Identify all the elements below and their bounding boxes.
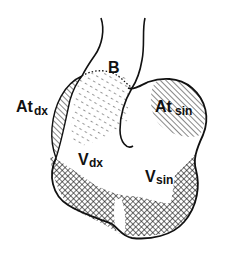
svg-text:dx: dx <box>34 104 48 118</box>
svg-text:sin: sin <box>175 104 192 118</box>
svg-text:dx: dx <box>89 156 103 170</box>
label-v-sin: V sin <box>145 168 173 187</box>
label-v-dx: V dx <box>78 151 103 170</box>
svg-text:At: At <box>155 98 173 115</box>
svg-text:V: V <box>78 151 89 168</box>
label-b: B <box>108 59 120 76</box>
heart-diagram: B At dx At sin V dx V sin <box>0 0 227 256</box>
vessel-left <box>82 18 103 76</box>
svg-text:At: At <box>16 98 34 115</box>
region-v-sin-fill <box>170 150 205 220</box>
label-at-dx: At dx <box>16 98 48 118</box>
svg-text:sin: sin <box>156 173 173 187</box>
svg-text:V: V <box>145 168 156 185</box>
